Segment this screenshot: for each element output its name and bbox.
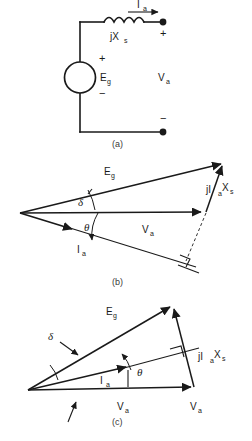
jiaxs-label: jI	[205, 184, 211, 195]
jiaxs-phasor-vector	[174, 309, 194, 387]
va-label: V	[142, 224, 149, 235]
jiaxs-x-label: X	[222, 182, 229, 193]
va-phasor-vector	[20, 212, 201, 213]
terminal-voltage-label: V	[158, 72, 165, 83]
va-label: V	[117, 401, 124, 412]
phasor-diagram-lagging: E g V a I a jI a X s δ θ (b)	[0, 155, 252, 290]
jiaxs-subscript-s: s	[230, 188, 234, 195]
voltage-source-circle-icon	[65, 62, 96, 93]
eg-subscript: g	[113, 312, 117, 320]
eg-label: E	[106, 306, 113, 317]
caption-a: (a)	[112, 139, 123, 149]
eg-phasor-vector	[20, 164, 221, 213]
terminal-voltage-subscript: a	[166, 78, 170, 85]
terminal-plus-sign: +	[160, 27, 166, 39]
terminal-minus-sign: −	[160, 112, 166, 124]
ia-phasor-vector	[20, 213, 72, 229]
circuit-reactance-subscript: s	[124, 37, 128, 44]
leader-line-icon-delta	[60, 342, 78, 355]
inductor-coil-icon	[104, 18, 144, 23]
terminal-node-icon-positive	[160, 19, 167, 26]
va-tip-subscript: a	[198, 407, 202, 414]
delta-angle-label: δ	[48, 330, 54, 342]
source-plus-sign: +	[99, 52, 105, 64]
ia-subscript: a	[82, 250, 86, 257]
eg-label: E	[104, 166, 111, 177]
ia-extension-line	[70, 228, 196, 267]
ia-label: I	[100, 375, 103, 386]
circuit-reactance-label: jX	[109, 31, 119, 42]
equivalent-circuit-diagram: I a jX s E g V a + − + − (a)	[0, 0, 252, 155]
eg-phasor-vector	[28, 307, 170, 390]
jiaxs-x-label: X	[214, 349, 221, 360]
caption-b: (b)	[112, 277, 123, 287]
ia-phasor-vector	[28, 367, 126, 390]
ia-subscript: a	[106, 381, 110, 388]
perpendicular-dashed-line	[186, 213, 206, 261]
figure-page: I a jX s E g V a + − + − (a)	[0, 0, 252, 441]
ia-line-tick	[178, 265, 199, 273]
theta-angle-label: θ	[137, 366, 143, 378]
source-voltage-subscript: g	[107, 78, 111, 86]
source-minus-sign: −	[99, 87, 105, 99]
va-subscript: a	[150, 230, 154, 237]
delta-angle-label: δ	[78, 196, 84, 208]
phasor-diagram-leading: E g V a V a I a jI a X s δ θ (c)	[0, 292, 252, 441]
source-voltage-label: E	[100, 72, 107, 83]
jiaxs-label: jI	[197, 351, 203, 362]
theta-angle-label: θ	[84, 221, 90, 233]
va-subscript: a	[125, 407, 129, 414]
eg-subscript: g	[111, 172, 115, 180]
va-tip-label: V	[190, 401, 197, 412]
reference-pointer-arrow-icon	[68, 402, 76, 422]
caption-c: (c)	[112, 417, 123, 427]
circuit-current-subscript: a	[143, 5, 147, 12]
circuit-current-label: I	[137, 0, 140, 10]
ia-label: I	[77, 244, 80, 255]
jiaxs-subscript-s: s	[222, 355, 226, 362]
terminal-node-icon-negative	[160, 129, 167, 136]
